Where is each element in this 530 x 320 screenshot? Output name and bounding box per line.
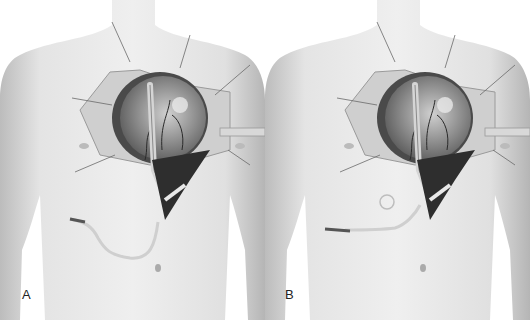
navel	[420, 264, 426, 272]
panel-a: A	[0, 0, 265, 320]
nipple-left	[344, 143, 354, 149]
nipple-left	[79, 143, 89, 149]
retractor	[220, 128, 265, 136]
panel-label-b: B	[285, 287, 294, 302]
heart	[120, 76, 206, 160]
heart-highlight	[437, 97, 453, 113]
torso-illustration-a	[0, 0, 265, 320]
drain-tube-end	[325, 229, 350, 231]
nipple-right	[235, 143, 245, 149]
heart	[385, 76, 471, 160]
panel-label-a: A	[22, 287, 31, 302]
retractor	[485, 128, 530, 136]
heart-highlight	[172, 97, 188, 113]
panel-b: B	[265, 0, 530, 320]
navel	[155, 264, 161, 272]
nipple-right	[500, 143, 510, 149]
torso-illustration-b	[265, 0, 530, 320]
